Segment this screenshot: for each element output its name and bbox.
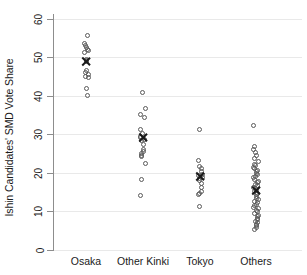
- mean-marker-osaka: [81, 56, 92, 67]
- y-tick-mark-50: [47, 57, 53, 58]
- y-tick-mark-30: [47, 134, 53, 135]
- gridline-0: [54, 250, 302, 251]
- dot-plot-chart: Ishin Candidates' SMD Vote Share 0102030…: [0, 0, 307, 275]
- y-tick-label-text: 10: [33, 206, 44, 217]
- y-tick-mark-40: [47, 96, 53, 97]
- data-point: [140, 90, 145, 95]
- data-point: [196, 158, 201, 163]
- y-tick-label-text: 20: [33, 168, 44, 179]
- data-point: [197, 127, 202, 132]
- y-tick-label-60: 60: [0, 13, 44, 25]
- data-point: [252, 227, 257, 232]
- data-point: [85, 33, 90, 38]
- data-point: [251, 123, 256, 128]
- data-point: [143, 161, 148, 166]
- data-point: [139, 154, 144, 159]
- x-tick-label-others: Others: [211, 254, 301, 268]
- gridline-20: [54, 173, 302, 174]
- gridline-10: [54, 211, 302, 212]
- y-axis-spine: [53, 14, 54, 251]
- y-tick-mark-10: [47, 211, 53, 212]
- y-tick-mark-0: [47, 250, 53, 251]
- y-tick-label-30: 30: [0, 129, 44, 141]
- data-point: [196, 192, 201, 197]
- mean-marker-other-kinki: [138, 132, 149, 143]
- y-tick-label-text: 0: [36, 248, 47, 254]
- y-tick-label-20: 20: [0, 167, 44, 179]
- data-point: [85, 93, 90, 98]
- y-tick-label-50: 50: [0, 52, 44, 64]
- gridline-60: [54, 19, 302, 20]
- mean-marker-others: [251, 185, 262, 196]
- y-tick-label-0: 0: [0, 245, 44, 257]
- data-point: [138, 193, 143, 198]
- y-tick-mark-60: [47, 19, 53, 20]
- y-tick-label-text: 40: [33, 91, 44, 102]
- data-point: [82, 50, 87, 55]
- y-tick-label-10: 10: [0, 206, 44, 218]
- data-point: [143, 106, 148, 111]
- gridline-30: [54, 134, 302, 135]
- y-tick-label-text: 50: [33, 52, 44, 63]
- data-point: [84, 86, 89, 91]
- y-tick-label-40: 40: [0, 90, 44, 102]
- y-tick-label-text: 30: [33, 129, 44, 140]
- data-point: [139, 177, 144, 182]
- data-point: [142, 115, 147, 120]
- data-point: [197, 204, 202, 209]
- mean-marker-tokyo: [195, 171, 206, 182]
- gridline-40: [54, 96, 302, 97]
- data-point: [86, 75, 91, 80]
- y-tick-label-text: 60: [33, 13, 44, 24]
- y-tick-mark-20: [47, 173, 53, 174]
